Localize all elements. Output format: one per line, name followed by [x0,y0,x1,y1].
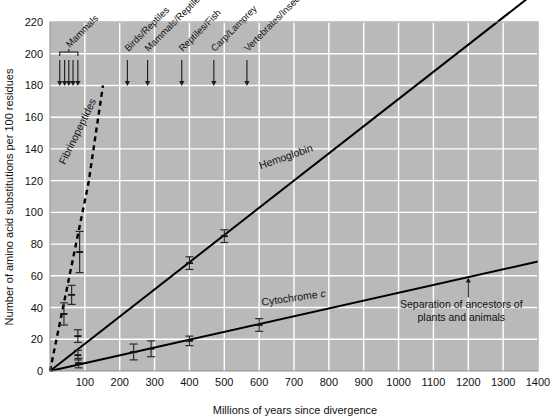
x-tick-label: 600 [250,376,268,388]
y-tick-label: 220 [25,16,43,28]
annotation-text-line1: Separation of ancestors of [400,298,523,310]
chart-figure: 1002003004005006007008009001000110012001… [0,0,551,419]
annotation-text-line2: plants and animals [418,311,506,323]
y-tick-label: 20 [31,333,43,345]
y-tick-label: 80 [31,238,43,250]
x-tick-label: 1100 [422,376,446,388]
y-tick-label: 60 [31,270,43,282]
y-tick-label: 200 [25,48,43,60]
x-axis-title: Millions of years since divergence [213,404,377,416]
x-tick-label: 200 [111,376,129,388]
x-tick-label: 800 [320,376,338,388]
y-axis-title: Number of amino acid substitutions per 1… [3,68,15,325]
y-tick-label: 140 [25,143,43,155]
y-tick-label: 120 [25,175,43,187]
y-tick-label: 160 [25,111,43,123]
x-tick-label: 500 [215,376,233,388]
y-tick-label: 180 [25,79,43,91]
x-tick-label: 400 [180,376,198,388]
x-tick-label: 700 [285,376,303,388]
y-tick-label: 100 [25,206,43,218]
y-tick-label: 0 [37,365,43,377]
x-tick-label: 900 [355,376,373,388]
x-tick-label: 100 [76,376,94,388]
x-tick-label: 1300 [491,376,515,388]
y-tick-label: 40 [31,302,43,314]
x-tick-label: 1400 [526,376,550,388]
x-tick-label: 300 [145,376,163,388]
x-tick-label: 1200 [456,376,480,388]
x-tick-label: 1000 [386,376,410,388]
amino-acid-substitution-chart: 1002003004005006007008009001000110012001… [0,0,551,419]
